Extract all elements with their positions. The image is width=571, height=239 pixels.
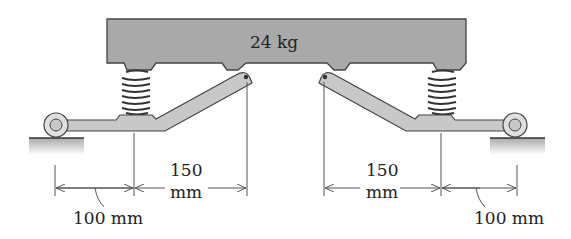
right-pin (323, 75, 327, 79)
dimension-right-outer-label: 100 mm (474, 208, 544, 228)
dimension-left-inner-unit: mm (170, 182, 202, 202)
dimension-right-inner-unit: mm (366, 182, 398, 202)
dimension-right-inner-value: 150 (366, 160, 398, 180)
left-roller (44, 113, 68, 137)
left-link (52, 73, 252, 131)
dimension-left-outer-label: 100 mm (73, 208, 143, 228)
mass-label: 24 kg (250, 32, 298, 52)
right-link (319, 73, 519, 131)
dimension-left-inner-value: 150 (170, 160, 202, 180)
extension-lines (55, 82, 517, 196)
left-spring (122, 71, 150, 115)
left-ground (29, 138, 84, 155)
right-spring (428, 71, 456, 115)
right-roller (503, 113, 527, 137)
right-ground (490, 138, 545, 155)
dimension-lines (56, 188, 516, 207)
left-pin (244, 75, 248, 79)
